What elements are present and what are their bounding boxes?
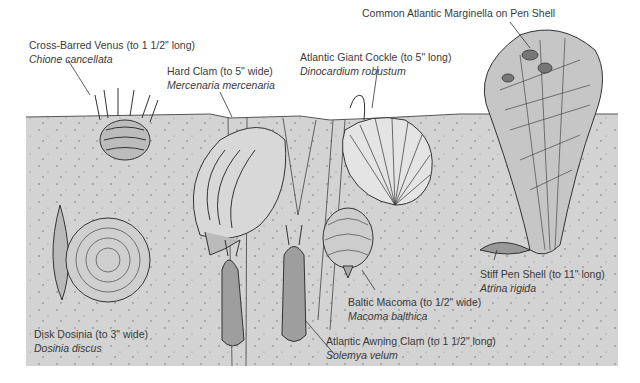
common-name: Common Atlantic Marginella on Pen Shell [362,6,555,20]
scientific-name: Atrina rigida [480,281,605,295]
common-name: Disk Dosinia (to 3" wide) [34,327,148,341]
label-atlantic-awning-clam: Atlantic Awning Clam (to 1 1/2" long) So… [326,334,496,362]
label-stiff-pen-shell: Stiff Pen Shell (to 11" long) Atrina rig… [480,267,605,295]
common-name: Hard Clam (to 5" wide) [167,64,275,78]
scientific-name: Macoma balthica [348,309,481,323]
scientific-name: Solemya velum [326,348,496,362]
label-baltic-macoma: Baltic Macoma (to 1/2" wide) Macoma balt… [348,295,481,323]
label-cross-barred-venus: Cross-Barred Venus (to 1 1/2" long) Chio… [29,38,195,66]
label-hard-clam: Hard Clam (to 5" wide) Mercenaria mercen… [167,64,275,92]
scientific-name: Dosinia discus [34,341,148,355]
scientific-name: Mercenaria mercenaria [167,78,275,92]
label-atlantic-giant-cockle: Atlantic Giant Cockle (to 5" long) Dinoc… [300,50,451,78]
label-common-atlantic-marginella: Common Atlantic Marginella on Pen Shell [362,6,555,20]
common-name: Baltic Macoma (to 1/2" wide) [348,295,481,309]
illustration-scene: Cross-Barred Venus (to 1 1/2" long) Chio… [0,0,640,383]
label-disk-dosinia: Disk Dosinia (to 3" wide) Dosinia discus [34,327,148,355]
common-name: Atlantic Awning Clam (to 1 1/2" long) [326,334,496,348]
scientific-name: Dinocardium robustum [300,64,451,78]
common-name: Atlantic Giant Cockle (to 5" long) [300,50,451,64]
common-name: Stiff Pen Shell (to 11" long) [480,267,605,281]
common-name: Cross-Barred Venus (to 1 1/2" long) [29,38,195,52]
